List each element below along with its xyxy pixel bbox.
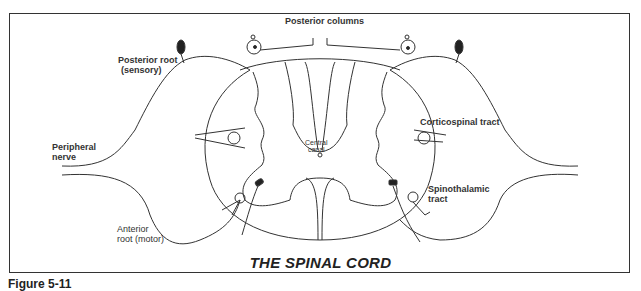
diagram-title: THE SPINAL CORD (0, 254, 641, 271)
label-central-canal: Central canal (305, 139, 328, 153)
central-canal-icon (318, 153, 322, 157)
posterior-columns-bracket (260, 38, 400, 50)
posterior-column-left-divider (285, 62, 293, 125)
right-spinothalamic-neuron-icon (408, 192, 418, 202)
right-dorsal-root-ganglion-icon (455, 40, 463, 54)
cord-left-outline (205, 70, 320, 240)
right-motor-neuron-icon (389, 180, 397, 185)
posterior-median-septum (305, 62, 335, 150)
label-anterior-root: Anterior root (motor) (117, 224, 164, 244)
left-corticospinal-neuron-icon (228, 132, 240, 144)
right-corticospinal-neuron-icon (418, 132, 430, 144)
label-corticospinal-tract: Corticospinal tract (420, 117, 500, 127)
label-peripheral-nerve: Peripheral nerve (52, 142, 96, 162)
left-motor-neuron-icon (255, 178, 264, 187)
label-posterior-columns: Posterior columns (285, 16, 364, 26)
cord-right-outline (320, 70, 435, 240)
label-spinothalamic-tract: Spinothalamic tract (428, 184, 490, 204)
posterior-column-right-divider (347, 62, 355, 125)
left-dorsal-root-ganglion-icon (177, 40, 185, 54)
label-posterior-root: Posterior root (sensory) (118, 55, 178, 75)
right-nerve-upper-outline (390, 56, 578, 166)
anterior-median-fissure (306, 178, 334, 240)
figure-caption: Figure 5-11 (8, 277, 71, 291)
cord-dorsal-surface (240, 59, 400, 70)
